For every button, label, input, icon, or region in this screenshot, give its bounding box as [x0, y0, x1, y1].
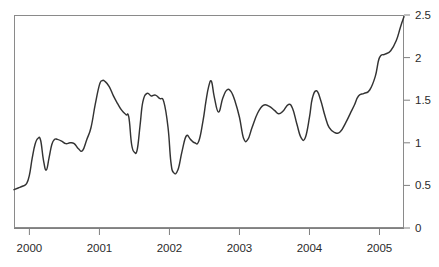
- chart-container: 00.511.522.5 200020012002200320042005: [0, 0, 439, 267]
- x-axis-tick-labels: 200020012002200320042005: [17, 242, 393, 254]
- x-tick-label: 2001: [87, 242, 113, 254]
- x-tick-label: 2002: [157, 242, 183, 254]
- x-tick-label: 2003: [227, 242, 253, 254]
- y-tick-label: 0: [415, 222, 421, 234]
- y-axis-tick-labels: 00.511.522.5: [415, 9, 431, 234]
- y-axis-ticks: [404, 15, 410, 228]
- y-tick-label: 1: [415, 137, 421, 149]
- x-axis-ticks: [14, 229, 404, 236]
- y-tick-label: 1.5: [415, 94, 431, 106]
- x-tick-label: 2005: [367, 242, 393, 254]
- x-tick-label: 2000: [17, 242, 43, 254]
- line-chart: 00.511.522.5 200020012002200320042005: [0, 0, 439, 267]
- y-tick-label: 2.5: [415, 9, 431, 21]
- y-tick-label: 2: [415, 52, 421, 64]
- y-tick-label: 0.5: [415, 179, 431, 191]
- plot-area-border: [15, 16, 404, 228]
- x-tick-label: 2004: [297, 242, 323, 254]
- plot-frame: [15, 16, 404, 228]
